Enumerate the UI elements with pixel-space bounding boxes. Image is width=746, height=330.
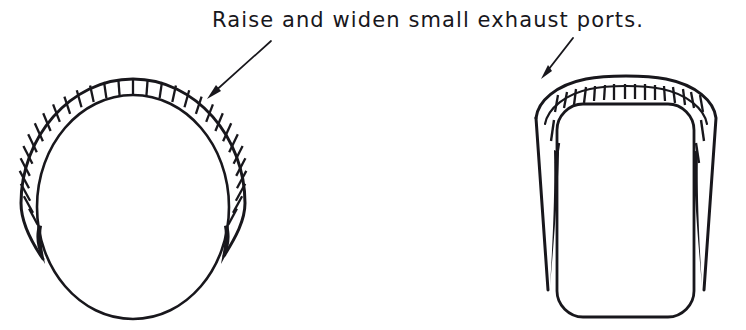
drawing-background bbox=[0, 0, 746, 330]
technical-drawing-canvas: Raise and widen small exhaust ports. bbox=[0, 0, 746, 330]
annotation-label: Raise and widen small exhaust ports. bbox=[212, 8, 644, 32]
diagram-page: Raise and widen small exhaust ports. bbox=[0, 0, 746, 330]
